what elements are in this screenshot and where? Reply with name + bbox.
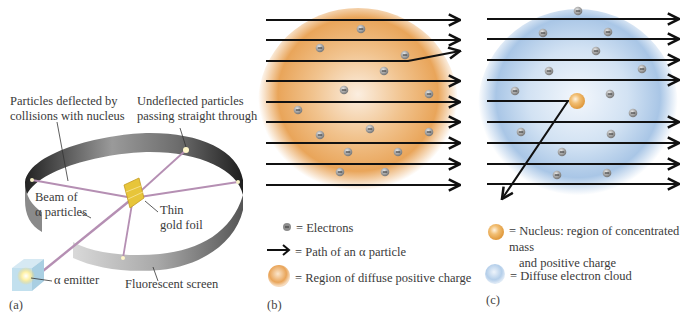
positive-charge-sphere-icon (267, 264, 291, 292)
label-emitter: α emitter (54, 273, 99, 288)
rutherford-model (478, 7, 679, 205)
positive-charge-region (258, 8, 458, 200)
electron-cloud-icon (484, 263, 506, 289)
arrow-icon (267, 244, 291, 260)
legend-alpha-path: = Path of an α particle (267, 244, 406, 260)
label-beam: Beam of α particles (35, 190, 87, 220)
panel-tag-b: (b) (267, 298, 282, 313)
legend-positive-charge: = Region of diffuse positive charge (267, 264, 471, 292)
electron-icon (282, 221, 292, 236)
panel-tag-c: (c) (486, 293, 500, 308)
nucleus-icon (487, 223, 505, 245)
alpha-emitter (12, 259, 44, 291)
label-deflected: Particles deflected by collisions with n… (10, 94, 125, 124)
panel-tag-a: (a) (9, 298, 23, 313)
legend-electrons: = Electrons (282, 221, 353, 236)
thomson-model (258, 8, 460, 200)
nucleus (569, 93, 585, 109)
fluorescent-screen-front (73, 195, 243, 271)
legend-electron-cloud: = Diffuse electron cloud (484, 263, 632, 289)
label-gold-foil: Thin gold foil (160, 203, 203, 233)
label-undeflected: Undeflected particles passing straight t… (137, 94, 257, 124)
label-screen: Fluorescent screen (125, 277, 218, 292)
